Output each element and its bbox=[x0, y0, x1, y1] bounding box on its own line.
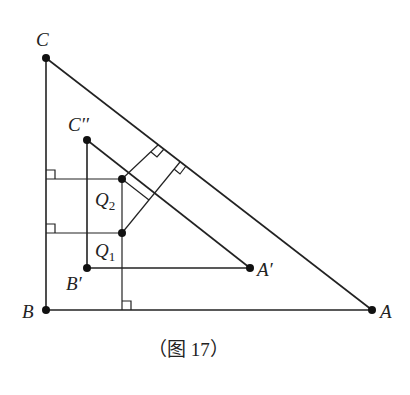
label-A: A bbox=[378, 301, 392, 322]
label-C2: C′′ bbox=[68, 114, 90, 135]
perp-Q1-to-CA bbox=[122, 162, 180, 233]
point-Q2 bbox=[118, 175, 126, 183]
label-A1: A′ bbox=[255, 259, 274, 280]
label-Q2: Q2 bbox=[95, 189, 115, 213]
segment-CA bbox=[46, 58, 372, 310]
point-A1 bbox=[246, 264, 254, 272]
label-C: C bbox=[36, 29, 49, 50]
point-B1 bbox=[83, 264, 91, 272]
right-angle-marker bbox=[46, 224, 55, 233]
geometry-diagram: C B A C′′ B′ A′ Q2 Q1 （图 17） bbox=[0, 0, 410, 395]
point-C2 bbox=[83, 136, 91, 144]
perp-Q2-to-CA bbox=[122, 145, 158, 179]
point-A bbox=[368, 306, 376, 314]
point-C bbox=[42, 54, 50, 62]
label-Q1: Q1 bbox=[95, 240, 115, 264]
label-B: B bbox=[22, 301, 34, 322]
figure-caption: （图 17） bbox=[148, 339, 229, 360]
label-B1: B′ bbox=[66, 273, 83, 294]
right-angle-marker bbox=[122, 301, 131, 310]
point-Q1 bbox=[118, 229, 126, 237]
right-angle-marker bbox=[46, 170, 55, 179]
point-B bbox=[42, 306, 50, 314]
parallel-segment-Q2 bbox=[122, 179, 149, 200]
